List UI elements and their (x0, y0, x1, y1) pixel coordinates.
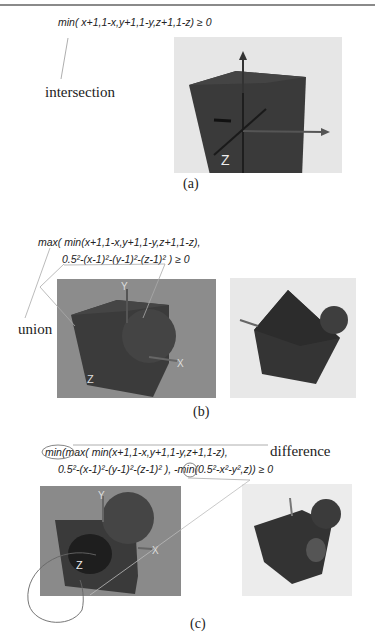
svg-text:Z: Z (76, 559, 83, 571)
top-rule (0, 4, 375, 6)
svg-text:Y: Y (121, 281, 128, 292)
render-b-union-front: Y X Z (57, 279, 216, 398)
annotation-difference: difference (270, 443, 331, 460)
formula-b-line2: 0.5²-(x-1)²-(y-1)²-(z-1)² ) ≥ 0 (62, 253, 190, 265)
formula-c-line1: min(max( min(x+1,1-x,y+1,1-y,z+1,1-z), (45, 446, 228, 458)
svg-text:Z: Z (87, 373, 94, 385)
svg-text:X: X (152, 545, 159, 556)
svg-text:Y: Y (98, 490, 105, 501)
formula-b-line1: max( min(x+1,1-x,y+1,1-y,z+1,1-z), (38, 236, 200, 248)
annotation-union: union (18, 321, 52, 338)
caption-b: (b) (193, 404, 209, 420)
formula-a: min( x+1,1-x,y+1,1-y,z+1,1-z) ≥ 0 (58, 16, 212, 28)
render-c-difference-rotated (242, 484, 352, 596)
caption-c: (c) (190, 616, 206, 632)
caption-a: (a) (183, 176, 199, 192)
svg-text:X: X (177, 358, 184, 369)
svg-text:Z: Z (221, 152, 230, 168)
annotation-intersection: intersection (45, 84, 115, 101)
render-c-difference-front: Y X Z (40, 486, 181, 596)
render-a-cube: Z (174, 37, 342, 173)
formula-c-line2: 0.5²-(x-1)²-(y-1)²-(z-1)² ), -min(0.5²-x… (58, 463, 273, 475)
render-b-union-rotated (230, 278, 356, 398)
